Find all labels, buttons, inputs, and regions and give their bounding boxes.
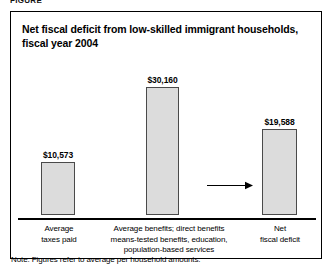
- bar-rect[interactable]: [146, 87, 179, 215]
- bar-group[interactable]: $19,588: [262, 117, 297, 216]
- bar-rect[interactable]: [262, 129, 297, 215]
- bar-value-label: $19,588: [264, 117, 294, 127]
- bar-value-label: $30,160: [147, 75, 177, 85]
- bar-value-label: $10,573: [43, 150, 73, 160]
- flow-arrow-icon: [207, 180, 253, 191]
- bar-group[interactable]: $30,160: [146, 75, 179, 216]
- bar-rect[interactable]: [41, 162, 75, 215]
- axis-label-average-benefits: Average benefits; direct benefitsmeans-t…: [99, 224, 239, 256]
- chart-note: Note: Figures refer to average per house…: [11, 255, 200, 264]
- axis-baseline: [18, 218, 316, 220]
- figure-caption: FIGURE: [10, 0, 42, 3]
- chart-title: Net fiscal deficit from low-skilled immi…: [22, 23, 304, 50]
- plot-area: $10,573 $30,160 $19,588: [19, 67, 315, 215]
- axis-label-average-taxes-paid: Averagetaxes paid: [19, 224, 99, 245]
- axis-label-net-fiscal-deficit: Netfiscal deficit: [241, 224, 319, 245]
- chart-frame: Net fiscal deficit from low-skilled immi…: [10, 11, 322, 259]
- bar-group[interactable]: $10,573: [41, 150, 75, 216]
